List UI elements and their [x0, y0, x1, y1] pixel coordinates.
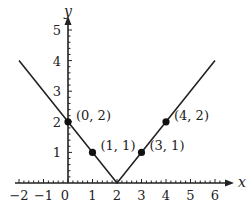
tick-marks [19, 24, 220, 183]
y-tick-label: 1 [53, 145, 61, 160]
point-label: (3, 1) [150, 138, 185, 153]
x-tick-label: 5 [186, 188, 194, 203]
x-tick-label: −1 [34, 188, 53, 203]
x-tick-label: 6 [211, 188, 219, 203]
data-point [89, 149, 96, 156]
axes: x y [15, 3, 246, 190]
x-tick-label: −2 [9, 188, 28, 203]
y-tick-label: 4 [53, 54, 61, 69]
x-tick-label: 1 [88, 188, 96, 203]
chart-canvas: x y −2−1012345612345 (0, 2)(1, 1)(3, 1)(… [0, 0, 249, 215]
x-tick-label: 3 [137, 188, 145, 203]
y-tick-label: 2 [53, 115, 61, 130]
x-axis-arrow-icon [225, 180, 234, 187]
absolute-value-chart: x y −2−1012345612345 (0, 2)(1, 1)(3, 1)(… [0, 0, 249, 215]
y-tick-label: 5 [53, 23, 61, 38]
x-tick-label: 4 [162, 188, 170, 203]
y-tick-label: 3 [53, 84, 61, 99]
data-point [162, 118, 169, 125]
point-label: (1, 1) [101, 138, 136, 153]
data-point [64, 118, 71, 125]
x-tick-label: 0 [61, 188, 69, 203]
y-axis-title: y [63, 3, 73, 19]
point-label: (0, 2) [76, 108, 111, 123]
labeled-points: (0, 2)(1, 1)(3, 1)(4, 2) [64, 108, 209, 156]
x-tick-label: 2 [113, 188, 121, 203]
point-label: (4, 2) [174, 108, 209, 123]
data-point [138, 149, 145, 156]
x-axis-title: x [238, 174, 246, 190]
